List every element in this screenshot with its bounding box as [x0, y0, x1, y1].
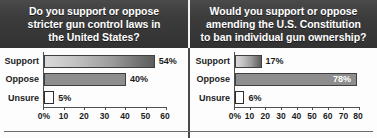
- tick-mark: [297, 107, 298, 110]
- tick-mark: [312, 107, 313, 110]
- tick-mark: [250, 107, 251, 110]
- tick-mark: [281, 107, 282, 110]
- tick-label: 50: [141, 111, 150, 121]
- tick-label: 30: [100, 111, 109, 121]
- question-line: Would you support or oppose: [210, 5, 358, 18]
- bar-rows-left: Support 54% Oppose 40% Unsure 5%: [43, 52, 166, 107]
- tick-mark: [105, 107, 106, 110]
- bar-value-label: 17%: [266, 56, 284, 66]
- category-label: Unsure: [8, 93, 39, 103]
- bar-row: Oppose 78%: [234, 70, 359, 88]
- tick-label: 20: [79, 111, 88, 121]
- bar-value-label: 40%: [130, 74, 148, 84]
- tick-label: 0%: [229, 111, 241, 121]
- tick-mark: [64, 107, 65, 110]
- bar-value-label: 54%: [159, 56, 177, 66]
- bottom-divider-rule: [4, 131, 373, 132]
- tick-mark: [234, 107, 235, 110]
- bar-row: Support 17%: [234, 52, 359, 70]
- bar-oppose: [44, 73, 126, 86]
- tick-label: 50: [307, 111, 316, 121]
- chart-panels: Support 54% Oppose 40% Unsure 5%: [0, 48, 377, 138]
- tick-label: 20: [261, 111, 270, 121]
- question-line: stricter gun control laws in: [28, 18, 161, 31]
- tick-mark: [125, 107, 126, 110]
- tick-label: 10: [245, 111, 254, 121]
- category-label: Oppose: [5, 74, 39, 84]
- tick-mark: [359, 107, 360, 110]
- bar-value-label: 78%: [333, 74, 351, 84]
- x-axis-ticks-left: 0% 10 20 30 40 50 60: [43, 107, 166, 125]
- bar-value-label: 5%: [58, 93, 71, 103]
- tick-label: 60: [160, 111, 169, 121]
- bar-unsure: [235, 91, 244, 104]
- bar-row: Support 54%: [43, 52, 166, 70]
- tick-label: 0%: [38, 111, 50, 121]
- poll-results-figure: Do you support or oppose stricter gun co…: [0, 0, 377, 138]
- bar-row: Unsure 6%: [234, 89, 359, 107]
- category-label: Support: [5, 56, 40, 66]
- category-label: Unsure: [199, 93, 230, 103]
- question-header-right: Would you support or oppose amending the…: [188, 0, 377, 48]
- tick-label: 40: [120, 111, 129, 121]
- chart-panel-gun-control-laws: Support 54% Oppose 40% Unsure 5%: [0, 48, 188, 138]
- bar-unsure: [44, 91, 54, 104]
- bar-rows-right: Support 17% Oppose 78% Unsure 6%: [234, 52, 359, 107]
- tick-label: 10: [59, 111, 68, 121]
- question-line: to ban individual gun ownership?: [201, 31, 367, 44]
- tick-mark: [328, 107, 329, 110]
- tick-mark: [265, 107, 266, 110]
- tick-label: 40: [292, 111, 301, 121]
- question-line: amending the U.S. Constitution: [206, 18, 361, 31]
- tick-label: 70: [339, 111, 348, 121]
- bar-support: [44, 55, 155, 68]
- question-line: the United States?: [48, 31, 139, 44]
- chart-panel-constitutional-amendment: Support 17% Oppose 78% Unsure 6%: [188, 48, 377, 138]
- tick-label: 80: [353, 111, 362, 121]
- category-label: Oppose: [196, 74, 230, 84]
- tick-mark: [43, 107, 44, 110]
- tick-mark: [166, 107, 167, 110]
- bar-row: Unsure 5%: [43, 89, 166, 107]
- tick-label: 30: [276, 111, 285, 121]
- question-header-band: Do you support or oppose stricter gun co…: [0, 0, 377, 48]
- tick-label: 60: [323, 111, 332, 121]
- category-label: Support: [196, 56, 231, 66]
- bar-row: Oppose 40%: [43, 70, 166, 88]
- tick-mark: [146, 107, 147, 110]
- bar-value-label: 6%: [248, 93, 261, 103]
- bar-support: [235, 55, 262, 68]
- tick-mark: [84, 107, 85, 110]
- bar-oppose: 78%: [235, 73, 357, 86]
- question-header-left: Do you support or oppose stricter gun co…: [0, 0, 188, 48]
- x-axis-ticks-right: 0% 10 20 30 40 50 60 70 80: [234, 107, 359, 125]
- question-line: Do you support or oppose: [29, 5, 159, 18]
- tick-mark: [343, 107, 344, 110]
